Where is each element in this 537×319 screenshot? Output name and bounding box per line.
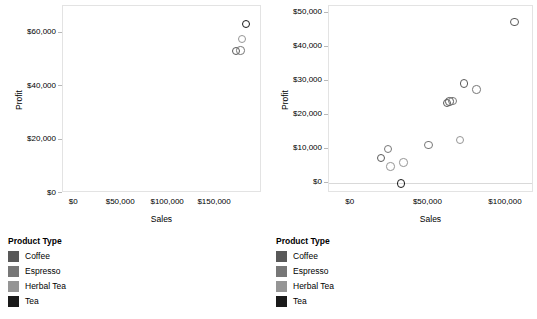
legend-swatch-icon: [276, 296, 287, 307]
left-panel: Profit $0$20,000$40,000$60,000 $0$50,000…: [0, 0, 268, 319]
right-legend-items: CoffeeEspressoHerbal TeaTea: [276, 249, 334, 309]
legend-item-espresso[interactable]: Espresso: [8, 264, 66, 279]
legend-swatch-icon: [8, 266, 19, 277]
y-tick-label: $20,000: [270, 109, 322, 118]
legend-item-espresso[interactable]: Espresso: [276, 264, 334, 279]
legend-swatch-icon: [8, 251, 19, 262]
y-tick-label: $20,000: [4, 134, 56, 143]
left-data-points: [63, 6, 260, 191]
left-legend-items: CoffeeEspressoHerbal TeaTea: [8, 249, 66, 309]
legend-item-label: Herbal Tea: [293, 281, 334, 292]
left-x-axis-title: Sales: [62, 214, 261, 224]
data-point[interactable]: [424, 141, 432, 149]
y-tick-label: $0: [270, 177, 322, 186]
right-y-axis-title: Profit: [280, 90, 290, 110]
legend-item-label: Coffee: [293, 251, 318, 262]
x-tick-label: $0: [320, 197, 380, 206]
left-legend-title: Product Type: [8, 236, 66, 246]
legend-item-tea[interactable]: Tea: [8, 294, 66, 309]
left-legend: Product Type CoffeeEspressoHerbal TeaTea: [8, 236, 66, 309]
zero-reference-line: [329, 183, 532, 184]
data-point[interactable]: [460, 79, 468, 87]
x-tick-label: $100,000: [475, 197, 535, 206]
right-panel: Profit $0$10,000$20,000$30,000$40,000$50…: [268, 0, 537, 319]
legend-item-label: Espresso: [25, 266, 60, 277]
y-tick-label: $40,000: [270, 41, 322, 50]
legend-item-coffee[interactable]: Coffee: [276, 249, 334, 264]
left-plot-area[interactable]: [62, 5, 261, 192]
data-point[interactable]: [448, 97, 456, 105]
x-tick-label: $50,000: [397, 197, 457, 206]
data-point[interactable]: [384, 145, 392, 153]
y-tick-label: $60,000: [4, 27, 56, 36]
data-point[interactable]: [510, 18, 518, 26]
data-point[interactable]: [472, 85, 480, 93]
legend-item-label: Tea: [25, 296, 39, 307]
data-point[interactable]: [397, 179, 405, 187]
right-legend: Product Type CoffeeEspressoHerbal TeaTea: [276, 236, 334, 309]
y-tick-label: $0: [4, 188, 56, 197]
legend-swatch-icon: [276, 251, 287, 262]
legend-item-label: Espresso: [293, 266, 328, 277]
legend-item-coffee[interactable]: Coffee: [8, 249, 66, 264]
right-x-axis-title: Sales: [328, 214, 533, 224]
y-tick-label: $40,000: [4, 81, 56, 90]
data-point[interactable]: [399, 158, 407, 166]
y-tick-mark: [58, 192, 62, 193]
legend-swatch-icon: [8, 296, 19, 307]
data-point[interactable]: [456, 136, 464, 144]
legend-item-label: Tea: [293, 296, 307, 307]
data-point[interactable]: [386, 162, 394, 170]
left-y-axis-title: Profit: [14, 90, 24, 110]
data-point[interactable]: [242, 20, 250, 28]
legend-swatch-icon: [8, 281, 19, 292]
x-tick-label: $150,000: [184, 197, 244, 206]
legend-swatch-icon: [276, 281, 287, 292]
data-point[interactable]: [236, 46, 244, 54]
y-tick-label: $30,000: [270, 75, 322, 84]
right-plot-area[interactable]: [328, 5, 533, 192]
data-point[interactable]: [238, 35, 246, 43]
legend-item-herbal-tea[interactable]: Herbal Tea: [276, 279, 334, 294]
y-tick-label: $50,000: [270, 7, 322, 16]
right-legend-title: Product Type: [276, 236, 334, 246]
legend-item-tea[interactable]: Tea: [276, 294, 334, 309]
legend-item-herbal-tea[interactable]: Herbal Tea: [8, 279, 66, 294]
dashboard-panels: Profit $0$20,000$40,000$60,000 $0$50,000…: [0, 0, 537, 319]
legend-swatch-icon: [276, 266, 287, 277]
data-point[interactable]: [377, 154, 385, 162]
legend-item-label: Coffee: [25, 251, 50, 262]
right-data-points: [329, 6, 532, 191]
legend-item-label: Herbal Tea: [25, 281, 66, 292]
y-tick-label: $10,000: [270, 143, 322, 152]
